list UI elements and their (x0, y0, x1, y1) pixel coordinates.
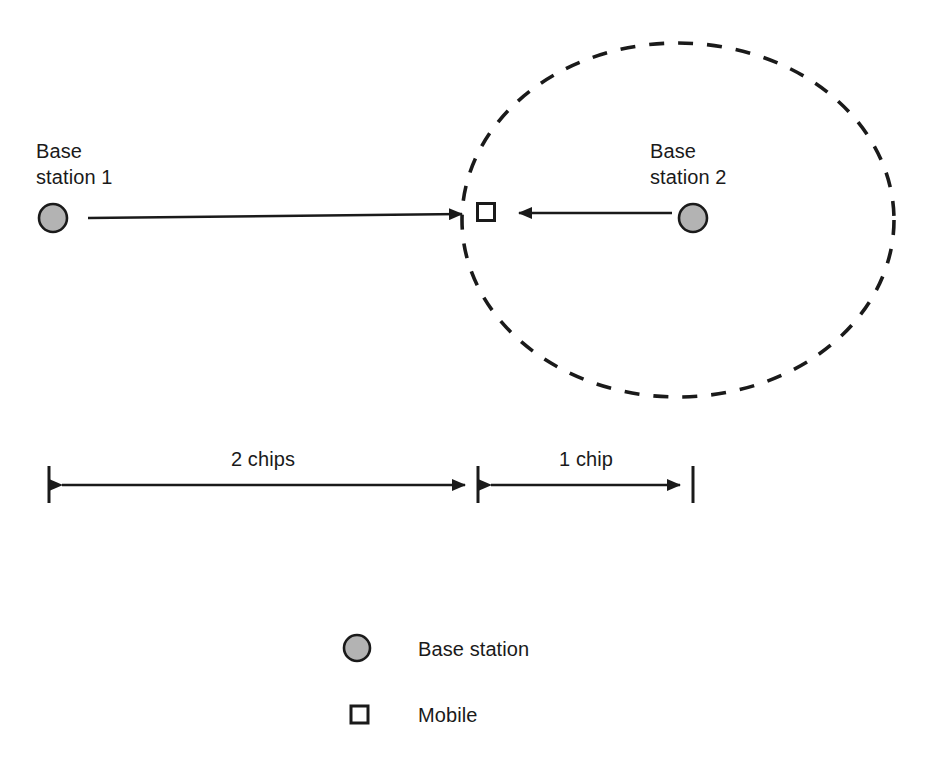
one-chip-dimension-label: 1 chip (559, 446, 613, 472)
legend-mobile-label: Mobile (418, 702, 478, 728)
base-station-1-node (39, 204, 67, 232)
base-station-2-label-line2: station 2 (650, 164, 727, 190)
base-station-2-label-line1: Base (650, 138, 696, 164)
base-station-1-label-line2: station 1 (36, 164, 113, 190)
legend-base-station-icon (344, 635, 370, 661)
base-station-2-node (679, 204, 707, 232)
signal-arrow-bs1-to-mobile (88, 214, 462, 218)
base-station-1-label-line1: Base (36, 138, 82, 164)
legend-mobile-icon (351, 706, 368, 723)
two-chips-dimension-label: 2 chips (231, 446, 295, 472)
diagram-canvas: Base station 1 Base station 2 2 chips 1 … (0, 0, 935, 765)
mobile-node (478, 204, 495, 221)
legend-base-station-label: Base station (418, 636, 529, 662)
